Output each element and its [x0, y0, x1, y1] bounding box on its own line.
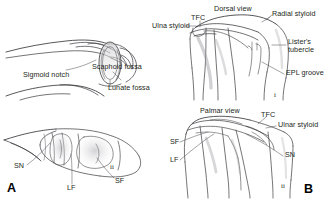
panel-letter-b: B [304, 183, 313, 196]
panel-letter-a: A [7, 182, 16, 195]
label-ulna-styloid: Ulna styloid [152, 22, 190, 30]
label-dorsal-view: Dorsal view [214, 5, 252, 13]
label-scaphoid-fossa: Scaphoid fossa [92, 63, 142, 71]
abbr-lf-panel-a: LF [67, 184, 75, 192]
label-listers-tubercle-line2: tubercle [288, 46, 314, 54]
abbr-sn-panel-a: SN [14, 162, 24, 170]
label-palmar-view: Palmar view [200, 107, 240, 115]
panel-b-palmar-artwork [184, 116, 293, 198]
label-tfc-palmar: TFC [261, 111, 275, 119]
anatomical-line-art [0, 0, 331, 206]
panel-b-dorsal-artwork [190, 15, 288, 100]
label-tfc-dorsal: TFC [191, 14, 205, 22]
anatomy-figure: Sigmoid notch Scaphoid fossa Lunate foss… [0, 0, 331, 206]
label-sigmoid-notch: Sigmoid notch [23, 71, 69, 79]
label-radial-styloid: Radial styloid [272, 10, 315, 18]
abbr-sn-panel-b: SN [285, 151, 295, 159]
abbr-sf-panel-b: SF [170, 138, 179, 146]
abbr-lf-panel-b: LF [170, 156, 178, 164]
marker-i-panel-b: i [274, 92, 276, 99]
marker-ii-panel-a: ii [110, 164, 114, 171]
label-epl-groove: EPL groove [286, 69, 324, 77]
marker-ii-panel-b: ii [281, 183, 285, 190]
panel-a-artwork [4, 40, 141, 177]
label-lunate-fossa: Lunate fossa [108, 84, 150, 92]
leader-lines [27, 15, 286, 184]
label-ulnar-styloid: Ulnar styloid [278, 121, 318, 129]
abbr-sf-panel-a: SF [115, 177, 124, 185]
